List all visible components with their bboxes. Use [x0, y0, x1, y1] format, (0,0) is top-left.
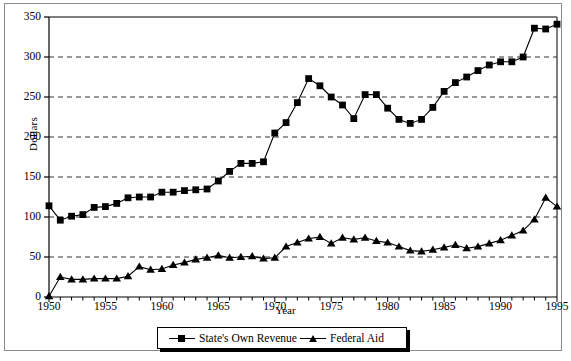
x-tick-label: 1990 [481, 300, 521, 312]
y-tick-label: 150 [7, 170, 41, 182]
x-tick-label: 1960 [142, 300, 182, 312]
legend-item-states-own-revenue: State's Own Revenue [169, 328, 297, 348]
x-tick-label: 1955 [85, 300, 125, 312]
legend-line-triangle [300, 338, 326, 339]
y-tick-label: 250 [7, 90, 41, 102]
legend-label-states-own-revenue: State's Own Revenue [199, 332, 297, 344]
y-tick-label: 200 [7, 130, 41, 142]
x-tick-label: 1970 [255, 300, 295, 312]
legend-item-federal-aid: Federal Aid [300, 328, 384, 348]
chart-canvas: Dollars Year 050100150200250300350 19501… [0, 0, 571, 361]
x-tick-label: 1980 [368, 300, 408, 312]
x-tick-label: 1995 [537, 300, 571, 312]
y-tick-label: 350 [7, 10, 41, 22]
square-marker-icon [178, 335, 185, 342]
triangle-marker-icon [309, 335, 317, 342]
x-tick-label: 1985 [424, 300, 464, 312]
x-tick-label: 1965 [198, 300, 238, 312]
y-tick-label: 50 [7, 250, 41, 262]
chart-legend: State's Own Revenue Federal Aid [157, 327, 407, 349]
legend-label-federal-aid: Federal Aid [330, 332, 384, 344]
y-tick-label: 100 [7, 210, 41, 222]
x-tick-label: 1950 [29, 300, 69, 312]
x-tick-label: 1975 [311, 300, 351, 312]
y-tick-label: 300 [7, 50, 41, 62]
legend-line-square [169, 338, 195, 339]
